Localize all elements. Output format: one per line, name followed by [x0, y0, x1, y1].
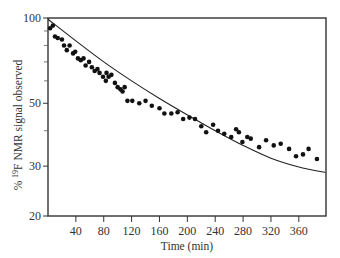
data-point — [65, 48, 70, 53]
x-tick-label: 120 — [123, 224, 141, 238]
x-axis: 4080120160200240280320360 — [70, 216, 308, 238]
plot-area — [48, 18, 326, 216]
data-point — [162, 111, 167, 116]
data-point — [60, 37, 65, 42]
data-point — [62, 43, 67, 48]
data-point — [271, 143, 276, 148]
x-tick-label: 240 — [206, 224, 224, 238]
data-point — [150, 103, 155, 108]
x-tick-label: 40 — [70, 224, 82, 238]
x-tick-label: 360 — [290, 224, 308, 238]
data-point — [294, 154, 299, 159]
y-label-suffix: F NMR signal observed — [12, 59, 25, 169]
data-point — [257, 145, 262, 150]
data-point — [237, 130, 242, 135]
data-point — [278, 141, 283, 146]
data-point — [73, 49, 78, 54]
data-point — [169, 111, 174, 116]
data-point — [193, 117, 198, 122]
x-tick-label: 200 — [178, 224, 196, 238]
fit-curve — [48, 19, 325, 172]
y-tick-label: 100 — [23, 11, 41, 25]
data-point — [315, 157, 320, 162]
data-point — [229, 135, 234, 140]
data-point — [264, 138, 269, 143]
data-point — [301, 152, 306, 157]
chart: 100503020 4080120160200240280320360 Time… — [0, 0, 340, 258]
x-tick-label: 80 — [98, 224, 110, 238]
y-axis: 100503020 — [23, 11, 48, 223]
data-point — [113, 81, 118, 86]
data-point — [137, 101, 142, 106]
data-point — [143, 99, 148, 104]
data-point — [222, 132, 227, 137]
data-point — [104, 79, 109, 84]
data-point — [101, 75, 106, 80]
data-point — [306, 147, 311, 152]
y-label-prefix: % — [12, 178, 24, 190]
y-axis-label: % 19F NMR signal observed — [11, 59, 25, 190]
data-point — [81, 56, 86, 61]
data-point — [83, 63, 88, 68]
data-point — [51, 23, 56, 28]
data-point — [67, 43, 72, 48]
y-tick-label: 30 — [29, 159, 41, 173]
data-point — [187, 115, 192, 120]
x-tick-label: 320 — [262, 224, 280, 238]
data-point — [181, 117, 186, 122]
data-point — [211, 122, 216, 127]
plot-frame — [48, 18, 326, 216]
x-axis-label: Time (min) — [161, 240, 213, 253]
data-point — [87, 60, 92, 65]
data-point — [199, 124, 204, 129]
data-point — [55, 36, 60, 41]
data-point — [120, 89, 125, 94]
data-point — [175, 110, 180, 115]
data-points — [48, 23, 319, 161]
data-point — [122, 85, 127, 90]
x-tick-label: 160 — [150, 224, 168, 238]
data-point — [90, 65, 95, 70]
data-point — [109, 73, 114, 78]
data-point — [104, 71, 109, 76]
data-point — [204, 130, 209, 135]
y-tick-label: 20 — [29, 209, 41, 223]
y-label-superscript: 19 — [11, 170, 20, 178]
data-point — [240, 140, 245, 145]
data-point — [248, 136, 253, 141]
data-point — [130, 99, 135, 104]
data-point — [287, 147, 292, 152]
data-point — [97, 71, 102, 76]
data-point — [125, 99, 130, 104]
y-tick-label: 50 — [29, 96, 41, 110]
data-point — [157, 106, 162, 111]
data-point — [216, 128, 221, 133]
x-tick-label: 280 — [234, 224, 252, 238]
